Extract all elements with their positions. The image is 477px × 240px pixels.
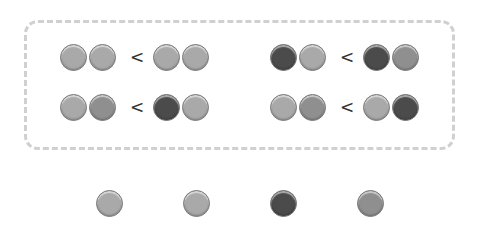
option-circle-light[interactable] (183, 190, 210, 217)
circle-dark (363, 44, 390, 71)
circle-light (60, 44, 87, 71)
circle-light (60, 94, 87, 121)
circle-dark (270, 44, 297, 71)
circle-light (299, 44, 326, 71)
circle-medium (299, 94, 326, 121)
less-than-sign: < (130, 47, 144, 67)
option-circle-light[interactable] (96, 190, 123, 217)
option-circle-medium[interactable] (357, 190, 384, 217)
circle-light (363, 94, 390, 121)
circle-light (89, 44, 116, 71)
circle-dark (392, 94, 419, 121)
circle-medium (392, 44, 419, 71)
option-circle-dark[interactable] (270, 190, 297, 217)
comparison-box (24, 20, 455, 150)
circle-dark (153, 94, 180, 121)
circle-light (153, 44, 180, 71)
circle-light (182, 44, 209, 71)
less-than-sign: < (340, 47, 354, 67)
circle-light (182, 94, 209, 121)
circle-medium (89, 94, 116, 121)
circle-light (270, 94, 297, 121)
less-than-sign: < (130, 97, 144, 117)
less-than-sign: < (340, 97, 354, 117)
